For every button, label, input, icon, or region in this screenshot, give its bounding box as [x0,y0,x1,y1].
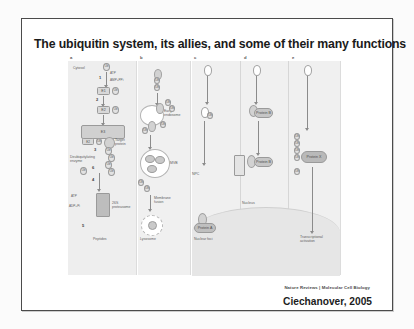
ubiquitin-on-e1: Ub [112,87,119,95]
panel-letter-c: c [194,55,196,60]
protein-a-badge: Protein A [194,223,216,233]
lysosome-content [148,221,157,230]
slide-frame: The ubiquitin system, its allies, and so… [21,18,393,311]
step-number-5: 5 [82,223,84,228]
arrow-panel-e-2 [312,167,313,231]
label-nuclear-foci: Nuclear foci [194,237,212,241]
arrow-internalization [157,93,158,103]
panel-e-ubiquitin-1: Ub [294,133,300,140]
label-mvb: MVB [170,161,178,165]
receptor-ubiquitin-1: Ub [154,77,160,84]
label-peptides: Peptides [93,237,107,241]
figure-ubiquitin-system: a b c d e Cytosol Ub 1 ATP AMP+PPi E1 Ub… [68,55,340,275]
arrow-e2-to-e3 [103,115,104,123]
step-number-3: 3 [94,147,96,152]
receptor-ubiquitin-2: Ub [154,84,160,91]
arrow-membrane-fusion [150,195,151,209]
ubiquitin-free: Ub [103,63,110,71]
panel-letter-b: b [140,55,143,60]
arrow-e1-activation [106,72,107,85]
label-atp-proteasome: ATP [71,195,77,199]
label-transcriptional-activation: Transcriptional activation [300,235,323,243]
arrow-endosome-to-mvb [150,135,151,147]
mvb-ilv-3 [147,165,157,173]
label-amp-ppi: AMP+PPi [110,79,123,83]
polyub-chain-link-4: Ub [108,168,115,176]
panel-e-ubiquitin-4: Ub [294,154,300,161]
protein-x-badge: Protein X [301,151,327,163]
mvb-ubiquitin-2: Ub [144,185,150,192]
step-number-4: 4 [92,177,94,182]
nature-reviews-credit: Nature Reviews | Molecular Cell Biology [284,285,370,290]
arrow-panel-c-2 [204,121,205,163]
label-adp-pi: ADP+Pi [69,205,80,209]
step-number-6: 6 [92,165,94,170]
protein-b-badge-2: Protein B [254,157,273,167]
mvb-ubiquitin-1: Ub [138,179,144,186]
arrow-panel-d-1 [256,76,257,102]
label-nucleus: Nucleus [242,201,255,205]
slide-background: The ubiquitin system, its allies, and so… [0,0,414,329]
panel-d-protein-top [253,65,261,76]
ubiquitin-transfer: Ub [96,138,102,145]
protein-b-badge-1: Protein B [254,108,273,118]
endosome-ubiquitin-3: Ub [142,127,148,134]
panel-c-monoubiquitin: Ub [207,112,213,119]
panel-letter-d: d [244,55,247,60]
label-npc: NPC [192,172,199,176]
mvb-ilv-1 [145,155,155,163]
step-number-1: 1 [99,75,101,80]
panel-c-protein-top [204,65,212,76]
label-target-protein: Target protein [115,138,126,146]
endosome-ubiquitin-4: Ub [160,121,166,128]
label-deubiquitylating-enzyme: Deubiquitylating enzyme [70,155,95,163]
arrow-to-proteasome [99,173,100,189]
panel-e-ubiquitin-5: Ub [294,168,300,175]
label-membrane-fusion: Membrane fusion [154,196,171,204]
label-lysosome: Lysosome [140,237,156,241]
panel-letter-e: e [292,55,294,60]
endosome-cargo-1 [156,103,164,114]
ubiquitin-on-e2: Ub [112,106,119,114]
enzyme-e1: E1 [97,87,110,95]
panel-letter-a: a [70,55,72,60]
panel-e-protein-top [304,65,312,76]
enzyme-e2-docked: E2 [82,138,94,145]
enzyme-e3: E3 [81,125,125,139]
mvb-shape [140,149,170,178]
mvb-ilv-2 [155,156,165,164]
slide-title: The ubiquitin system, its allies, and so… [34,37,384,51]
ubiquitin-released: Ub [80,167,87,175]
arrow-e1-to-e2 [103,96,104,104]
enzyme-e2: E2 [97,106,110,114]
label-26s-proteasome: 26S proteasome [112,201,130,209]
npc-channel [234,155,245,176]
citation-text: Ciechanover, 2005 [283,296,372,307]
arrow-panel-d-2 [258,121,259,153]
arrow-panel-c-1 [207,76,208,102]
panel-e-ubiquitin-3: Ub [294,147,300,154]
arrow-panel-e-1 [307,76,308,128]
step-number-2: 2 [96,97,98,102]
panel-e-ubiquitin-2: Ub [294,140,300,147]
endosome-cargo-2 [148,121,156,132]
label-cytosol: Cytosol [73,66,85,70]
endosome-ubiquitin-2: Ub [169,105,175,112]
proteasome-barrel [96,193,110,217]
label-atp: ATP [110,72,116,76]
